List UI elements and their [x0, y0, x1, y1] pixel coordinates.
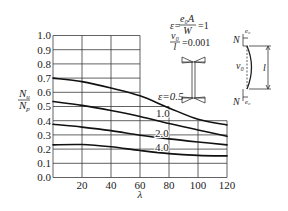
- x-tick-label: 20: [77, 179, 89, 191]
- column-top-bracket: [243, 34, 248, 46]
- formula2-rhs: =0.001: [182, 37, 210, 48]
- y-tick-label: 0.1: [37, 157, 51, 169]
- y-tick-label: 0.9: [37, 44, 51, 56]
- column-diagram: N e₀ v₀ l N e₀: [232, 27, 271, 107]
- formula1-rhs: =1: [198, 20, 209, 31]
- column-bow-label: v₀: [236, 60, 244, 71]
- x-tick-label: 40: [106, 179, 118, 191]
- i-section-icon: [182, 57, 205, 103]
- formula2-numerator: v₀: [171, 30, 179, 41]
- y-tick-labels: 0.00.10.20.30.40.50.60.70.80.91.0: [37, 29, 51, 183]
- y-tick-label: 0.5: [37, 100, 51, 112]
- curve-label-eps-4.0: 4.0: [155, 141, 169, 153]
- column-top-ecc-label: e₀: [245, 27, 251, 35]
- x-axis-label: λ: [137, 188, 143, 200]
- y-tick-label: 0.6: [37, 86, 51, 98]
- y-tick-label: 0.3: [37, 129, 51, 141]
- column-length-dimension: [249, 46, 271, 89]
- formula2-denominator: l: [174, 41, 177, 52]
- column-bottom-force-label: N: [232, 96, 241, 107]
- column-bottom-ecc-label: e₀: [245, 98, 251, 106]
- y-axis-label: Nu Np: [18, 87, 30, 113]
- y-tick-label: 0.4: [37, 115, 51, 127]
- y-tick-label: 0.2: [37, 143, 51, 155]
- formula1-numerator: e₀A: [180, 13, 195, 24]
- x-tick-labels: 20406080100120: [77, 179, 236, 191]
- curve-label-eps-2.0: 2.0: [155, 127, 169, 139]
- column-length-label: l: [263, 62, 266, 73]
- curve-label-eps-1.0: 1.0: [156, 107, 170, 119]
- x-tick-label: 80: [164, 179, 176, 191]
- column-bowed-axis: [247, 46, 252, 89]
- x-tick-label: 120: [219, 179, 236, 191]
- formula1-denominator: W: [183, 25, 193, 36]
- formula-inset: ε= e₀A W =1 v₀ l =0.001: [170, 13, 210, 52]
- column-top-force-label: N: [232, 34, 241, 45]
- curve-label-eps-0.5: ε=0.5: [158, 90, 184, 102]
- y-label-denominator: Np: [18, 99, 30, 113]
- y-tick-label: 0.8: [37, 58, 51, 70]
- y-tick-label: 0.0: [37, 171, 51, 183]
- y-tick-label: 0.7: [37, 72, 51, 84]
- chart: 0.00.10.20.30.40.50.60.70.80.91.0 204060…: [0, 0, 288, 211]
- x-tick-label: 100: [190, 179, 207, 191]
- y-tick-label: 1.0: [37, 29, 51, 41]
